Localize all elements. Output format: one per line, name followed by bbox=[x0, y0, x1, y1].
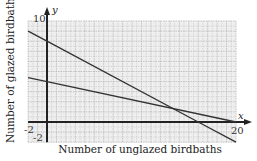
x-axis-name: x bbox=[238, 110, 244, 121]
x-max-tick-label: 20 bbox=[231, 125, 244, 136]
y-axis-name: y bbox=[52, 4, 58, 15]
y-min-tick-label: -2 bbox=[33, 132, 43, 143]
plot-area bbox=[28, 7, 252, 142]
y-max-tick-label: 10 bbox=[33, 13, 46, 24]
x-axis-title: Number of unglazed birdbaths bbox=[50, 143, 230, 155]
x-axis-arrow-icon bbox=[244, 119, 252, 125]
y-axis-title: Number of glazed birdbaths bbox=[4, 13, 16, 143]
